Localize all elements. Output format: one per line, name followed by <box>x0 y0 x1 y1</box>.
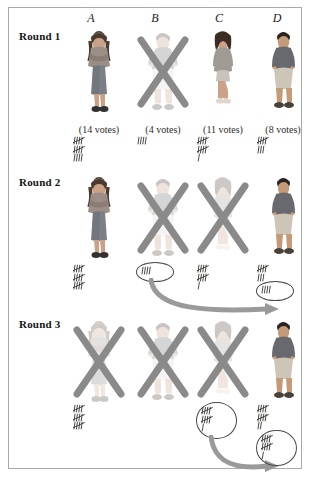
candidate-portrait <box>71 320 127 406</box>
person-woman-standing-icon <box>195 320 251 406</box>
tally-row <box>73 264 86 273</box>
round-label-1: Round 1 <box>19 30 60 42</box>
tally-row <box>257 421 270 430</box>
person-man-hands-on-hips-icon <box>135 320 191 406</box>
tally-row <box>261 451 274 460</box>
person-woman-standing-icon <box>195 176 251 262</box>
candidate-b-round-2 <box>135 176 191 262</box>
votes-caption-a-round-1: (14 votes) <box>63 124 135 135</box>
tally-group-five <box>73 264 86 273</box>
tally-row <box>73 136 86 145</box>
person-man-standing-icon <box>255 176 311 262</box>
candidate-d-round-3 <box>255 320 311 406</box>
candidate-a-round-1 <box>71 30 127 116</box>
tally-group-five <box>73 145 86 154</box>
tally-row <box>261 442 274 451</box>
tally-row <box>197 153 210 162</box>
circled-tally-b-round-2 <box>141 266 153 275</box>
figure-frame: A B C D Round 1 (14 votes) <box>8 7 302 469</box>
tally-group-partial <box>197 281 203 290</box>
tally-group-five <box>261 442 274 451</box>
tally-row <box>73 404 86 413</box>
column-header-d: D <box>257 11 297 26</box>
tally-group-five <box>257 413 270 422</box>
tally-group-five <box>197 264 210 273</box>
votes-caption-d-round-1: (8 votes) <box>247 124 312 135</box>
tally-block-a-round-1 <box>73 136 86 162</box>
circled-tally-c-round-3 <box>201 406 214 432</box>
tally-row <box>73 281 86 290</box>
tally-block-c-round-2 <box>197 264 210 290</box>
tally-group-partial <box>201 423 207 432</box>
tally-row <box>141 266 153 275</box>
candidate-portrait <box>195 176 251 262</box>
candidate-portrait <box>195 320 251 406</box>
person-man-hands-on-hips-icon <box>135 30 191 116</box>
tally-block-c-round-1 <box>197 136 210 162</box>
tally-group-five <box>197 145 210 154</box>
tally-block-d-round-1 <box>257 136 270 153</box>
tally-group-five <box>73 136 86 145</box>
tally-group-five <box>73 404 86 413</box>
person-man-hands-on-hips-icon <box>135 176 191 262</box>
tally-row <box>197 281 210 290</box>
tally-group-partial <box>197 153 203 162</box>
tally-group-partial <box>261 285 273 294</box>
tally-row <box>197 273 210 282</box>
tally-row <box>73 421 86 430</box>
candidate-portrait <box>71 176 127 262</box>
tally-group-five <box>73 281 86 290</box>
tally-group-five <box>201 406 214 415</box>
tally-row <box>261 285 273 294</box>
candidate-portrait <box>135 320 191 406</box>
candidate-d-round-2 <box>255 176 311 262</box>
candidate-c-round-2 <box>195 176 251 262</box>
round-label-3: Round 3 <box>19 318 60 330</box>
candidate-c-round-3 <box>195 320 251 406</box>
tally-row <box>197 264 210 273</box>
tally-group-five <box>257 264 270 273</box>
column-header-b: B <box>135 11 175 26</box>
tally-row <box>73 153 86 162</box>
candidate-d-round-1 <box>255 30 311 116</box>
tally-group-partial <box>261 451 267 460</box>
tally-block-a-round-2 <box>73 264 86 290</box>
tally-row <box>73 273 86 282</box>
person-woman-arms-crossed-icon <box>71 176 127 262</box>
candidate-b-round-3 <box>135 320 191 406</box>
tally-row <box>257 264 270 273</box>
tally-row <box>201 406 214 415</box>
tally-row <box>73 413 86 422</box>
tally-row <box>257 145 270 154</box>
tally-row <box>257 273 270 282</box>
circled-tally-d-round-3 <box>261 434 274 460</box>
candidate-portrait <box>255 176 311 262</box>
candidate-portrait <box>255 30 311 116</box>
tally-row <box>197 145 210 154</box>
tally-block-a-round-3 <box>73 404 86 430</box>
tally-row <box>257 404 270 413</box>
candidate-portrait <box>195 30 251 116</box>
person-woman-arms-crossed-icon <box>71 30 127 116</box>
tally-group-five <box>257 404 270 413</box>
tally-row <box>261 434 274 443</box>
tally-group-partial <box>73 153 85 162</box>
tally-group-five <box>261 434 274 443</box>
tally-block-d-round-3 <box>257 404 270 430</box>
candidate-a-round-2 <box>71 176 127 262</box>
tally-group-partial <box>257 421 265 430</box>
tally-group-five <box>73 413 86 422</box>
column-headers: A B C D <box>9 8 301 30</box>
candidate-portrait <box>255 320 311 406</box>
round-label-2: Round 2 <box>19 176 60 188</box>
tally-group-five <box>257 136 270 145</box>
tally-row <box>197 136 210 145</box>
tally-block-d-round-2 <box>257 264 270 281</box>
tally-row <box>201 415 214 424</box>
tally-group-five <box>73 421 86 430</box>
tally-row <box>257 413 270 422</box>
candidate-b-round-1 <box>135 30 191 116</box>
tally-row <box>73 145 86 154</box>
person-man-standing-icon <box>255 320 311 406</box>
tally-row <box>201 423 214 432</box>
